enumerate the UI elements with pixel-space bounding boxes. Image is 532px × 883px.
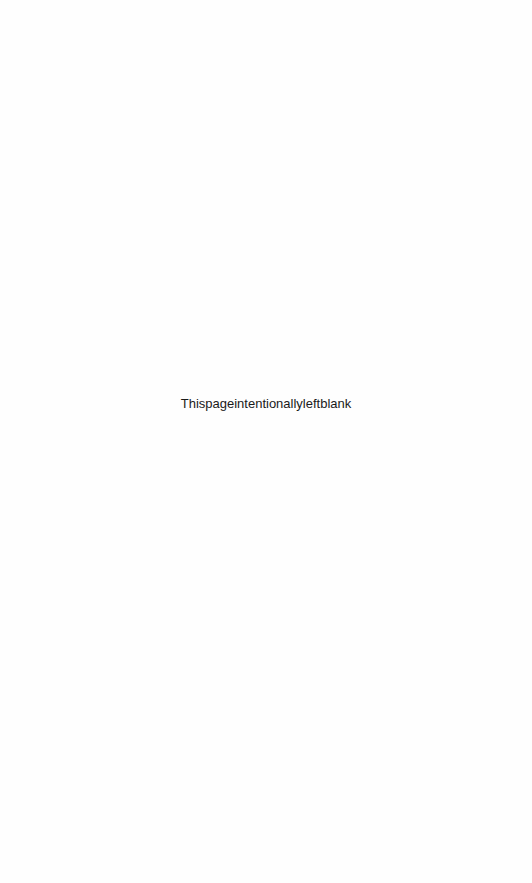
document-page: Thispageintentionallyleftblank xyxy=(0,0,532,883)
blank-page-notice: Thispageintentionallyleftblank xyxy=(0,396,532,411)
